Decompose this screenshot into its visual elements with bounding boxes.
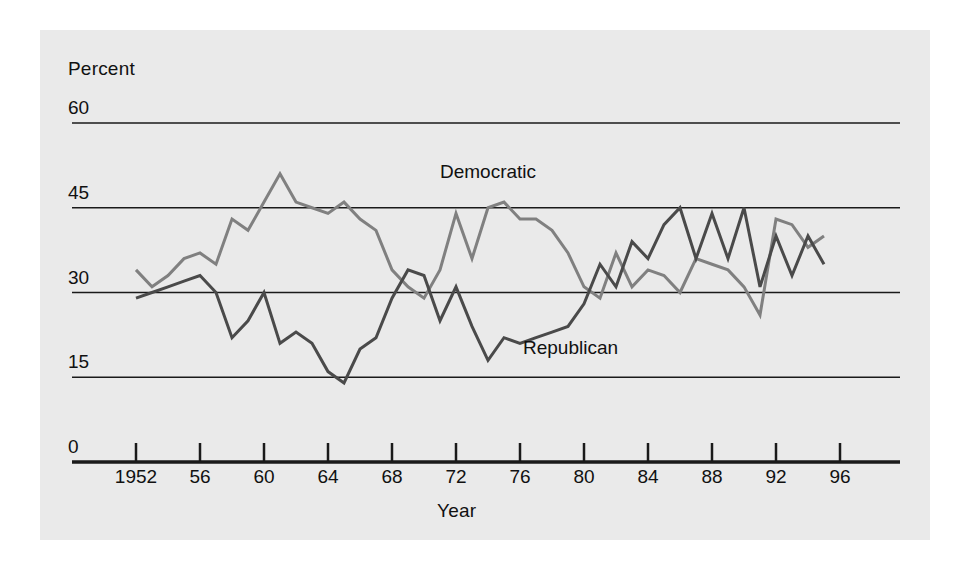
x-tick-label: 76 bbox=[490, 466, 550, 488]
x-tick-marks bbox=[136, 443, 840, 461]
x-tick-label: 92 bbox=[746, 466, 806, 488]
x-tick-label: 84 bbox=[618, 466, 678, 488]
figure-root: Percent Year 604530150 19525660646872768… bbox=[0, 0, 970, 568]
y-tick-label: 0 bbox=[68, 436, 79, 458]
y-tick-label: 15 bbox=[68, 351, 89, 373]
x-tick-label: 68 bbox=[362, 466, 422, 488]
x-tick-label: 96 bbox=[810, 466, 870, 488]
x-axis-title: Year bbox=[437, 500, 476, 522]
y-axis-title: Percent bbox=[68, 58, 135, 80]
x-tick-label: 56 bbox=[170, 466, 230, 488]
series-lines bbox=[136, 174, 824, 383]
series-label-democratic: Democratic bbox=[440, 161, 536, 183]
y-tick-label: 30 bbox=[68, 267, 89, 289]
x-tick-label: 64 bbox=[298, 466, 358, 488]
x-tick-label: 72 bbox=[426, 466, 486, 488]
series-line-democratic bbox=[136, 174, 824, 315]
x-tick-label: 60 bbox=[234, 466, 294, 488]
y-tick-label: 45 bbox=[68, 182, 89, 204]
series-label-republican: Republican bbox=[523, 337, 618, 359]
x-tick-label: 88 bbox=[682, 466, 742, 488]
y-tick-label: 60 bbox=[68, 97, 89, 119]
x-tick-label: 1952 bbox=[106, 466, 166, 488]
x-tick-label: 80 bbox=[554, 466, 614, 488]
